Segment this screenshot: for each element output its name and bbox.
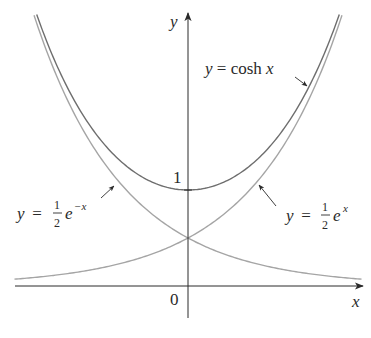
label-cosh-y: y [203,59,213,78]
label-left-eq: = [28,204,46,223]
y-axis-label: y [168,12,178,31]
svg-text:y = cosh x: y = cosh x [203,59,274,78]
origin-label: 0 [170,290,179,309]
label-cosh: y = cosh x [203,59,307,86]
cosh-exponential-chart: y x 0 1 y = cosh x y = 1 2 e −x y = 1 2 … [0,0,371,338]
curve-half-exp-x [14,15,342,279]
curve-half-exp-neg-x [34,15,362,279]
label-right-exp: x [342,202,348,214]
label-right-num: 1 [322,200,328,214]
label-right-eq: = [297,206,315,225]
label-left-num: 1 [54,198,60,212]
label-half-exp-neg: y = 1 2 e −x [15,186,114,230]
y-tick-label-one: 1 [173,168,182,187]
label-left-exp: −x [74,200,86,212]
x-axis-label: x [351,292,360,311]
label-half-exp: y = 1 2 e x [259,185,348,232]
arrow-cosh [295,77,307,86]
label-left-y: y [15,204,25,223]
label-right-y: y [284,206,294,225]
arrow-half-exp [259,185,276,206]
label-left-e: e [65,204,73,223]
arrow-half-exp-neg [101,186,114,198]
label-cosh-x: x [265,59,274,78]
label-cosh-eq: = cosh [213,59,267,78]
label-left-den: 2 [54,216,60,230]
label-right-e: e [333,206,341,225]
label-right-den: 2 [322,218,328,232]
